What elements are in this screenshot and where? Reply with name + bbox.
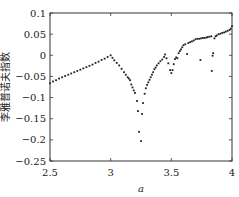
y-axis-label: 李雅普诺夫指数: [0, 52, 11, 122]
data-point: [230, 28, 232, 30]
y-tick-labels: 0.10.050−0.05−0.1−0.15−0.2−0.25: [15, 8, 46, 167]
data-point: [95, 62, 97, 64]
data-point: [227, 30, 229, 32]
data-point: [218, 33, 220, 35]
axis-ticks: [50, 13, 232, 161]
data-point: [142, 102, 144, 104]
data-point: [174, 58, 176, 60]
x-tick-label: 2.5: [42, 167, 58, 178]
data-point: [204, 37, 206, 39]
data-point: [220, 33, 222, 35]
data-point: [136, 100, 138, 102]
data-point: [82, 67, 84, 69]
data-point: [98, 61, 100, 63]
data-point: [189, 41, 191, 43]
data-point: [180, 48, 182, 50]
data-point: [138, 131, 140, 133]
data-point: [184, 43, 186, 45]
data-point: [79, 69, 81, 71]
data-point: [61, 76, 63, 78]
data-point: [166, 57, 168, 59]
data-point: [214, 37, 216, 39]
data-point: [128, 78, 130, 80]
y-tick-label: 0.1: [30, 8, 46, 19]
data-point: [67, 74, 69, 76]
data-point: [207, 36, 209, 38]
data-point: [73, 71, 75, 73]
data-point: [172, 69, 174, 71]
data-point: [198, 38, 200, 40]
data-point: [147, 81, 149, 83]
data-point: [130, 84, 132, 86]
data-point: [86, 66, 88, 68]
y-tick-label: −0.1: [22, 92, 46, 103]
y-tick-label: −0.2: [22, 134, 46, 145]
data-point: [221, 32, 223, 34]
lyapunov-chart: 2.533.54 0.10.050−0.05−0.1−0.15−0.2−0.25…: [0, 0, 239, 197]
data-point: [209, 36, 211, 38]
data-point: [183, 44, 185, 46]
y-tick-label: −0.25: [15, 156, 46, 167]
data-point: [104, 58, 106, 60]
y-tick-label: 0.05: [24, 29, 46, 40]
data-point: [160, 60, 162, 62]
data-point: [149, 79, 151, 81]
y-tick-label: −0.15: [15, 113, 46, 124]
data-point: [64, 75, 66, 77]
x-axis-label: a: [138, 183, 144, 194]
data-point: [107, 56, 109, 58]
data-point: [210, 35, 212, 37]
data-point: [161, 59, 163, 61]
data-point: [152, 71, 154, 73]
data-point: [193, 40, 195, 42]
data-point: [187, 42, 189, 44]
data-point: [145, 87, 147, 89]
x-tick-label: 4: [229, 167, 235, 178]
data-point: [113, 59, 115, 61]
data-point: [125, 74, 127, 76]
data-point: [158, 62, 160, 64]
data-point: [141, 113, 143, 115]
data-point: [110, 54, 112, 56]
data-point: [101, 59, 103, 61]
data-point: [225, 31, 227, 33]
data-point: [191, 40, 193, 42]
data-point: [212, 52, 214, 54]
data-point: [200, 37, 202, 39]
data-point: [164, 54, 166, 56]
data-point: [140, 140, 142, 142]
data-point: [211, 70, 213, 72]
data-point: [153, 68, 155, 70]
y-tick-label: −0.05: [15, 71, 46, 82]
data-point: [197, 38, 199, 40]
data-point: [134, 92, 136, 94]
data-point: [169, 69, 171, 71]
data-point: [118, 65, 120, 67]
data-point: [178, 52, 180, 54]
data-point: [112, 57, 114, 59]
data-point: [70, 73, 72, 75]
data-point: [167, 62, 169, 64]
data-point: [123, 71, 125, 73]
data-point: [58, 78, 60, 80]
data-point: [76, 70, 78, 72]
data-point: [137, 110, 139, 112]
data-point: [163, 56, 165, 58]
plot-frame: [50, 13, 232, 161]
data-point: [144, 93, 146, 95]
x-tick-label: 3.5: [163, 167, 179, 178]
x-tick-labels: 2.533.54: [42, 167, 235, 178]
data-point: [151, 74, 153, 76]
data-point: [52, 81, 54, 83]
x-tick-label: 3: [107, 167, 113, 178]
data-points: [49, 25, 233, 142]
y-tick-label: 0: [40, 50, 46, 61]
data-point: [186, 53, 188, 55]
data-point: [212, 55, 214, 57]
data-point: [129, 79, 131, 81]
data-point: [200, 59, 202, 61]
data-point: [116, 62, 118, 64]
data-point: [181, 46, 183, 48]
data-point: [223, 32, 225, 34]
data-point: [155, 67, 157, 69]
